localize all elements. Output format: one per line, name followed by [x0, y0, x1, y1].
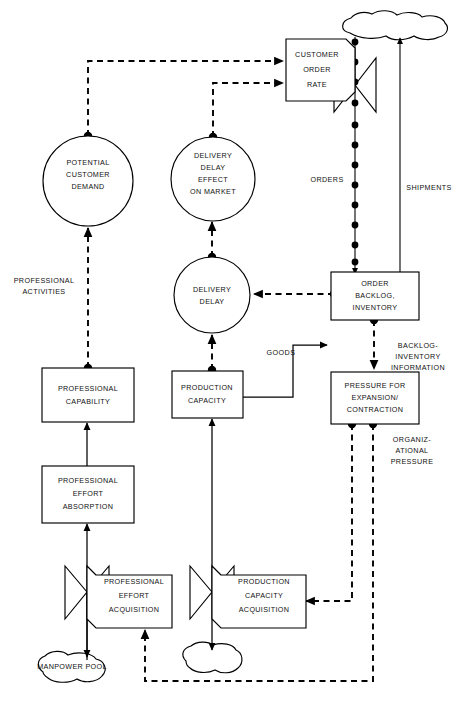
node-order-backlog-inventory[interactable]: ORDER BACKLOG, INVENTORY: [331, 272, 419, 320]
potential-customer-demand-line2: CUSTOMER: [66, 170, 110, 179]
link-capacity-to-delivery-delay: [208, 335, 216, 374]
production-capacity-acquisition-line2: CAPACITY: [245, 591, 283, 600]
backlog-info-label-line3: INFORMATION: [391, 363, 445, 372]
link-delay-effect-to-order-rate: [209, 83, 283, 141]
node-professional-effort-acquisition[interactable]: PROFESSIONAL EFFORT ACQUISITION: [87, 566, 172, 628]
customer-order-rate-line3: RATE: [307, 80, 327, 89]
manpower-pool-label: MANPOWER POOL: [37, 662, 107, 671]
delivery-delay-effect-line3: EFFECT: [198, 175, 228, 184]
system-dynamics-diagram: MANPOWER POOL ORDERS SHIPMENTS: [0, 0, 466, 702]
node-customer-order-rate[interactable]: CUSTOMER ORDER RATE: [286, 39, 355, 101]
node-delivery-delay-effect-on-market[interactable]: DELIVERY DELAY EFFECT ON MARKET: [171, 137, 255, 221]
goods-flow: GOODS: [243, 345, 327, 397]
order-backlog-line1: ORDER: [361, 279, 389, 288]
professional-capability-line2: CAPABILITY: [66, 397, 111, 406]
delivery-delay-line1: DELIVERY: [193, 285, 231, 294]
link-delay-to-delay-effect: [208, 222, 216, 261]
production-capacity-line1: PRODUCTION: [181, 383, 233, 392]
node-production-capacity-acquisition[interactable]: PRODUCTION CAPACITY ACQUISITION: [212, 566, 306, 628]
order-backlog-line3: INVENTORY: [353, 303, 398, 312]
shipments-flow-label: SHIPMENTS: [406, 183, 452, 192]
link-pressure-to-capacity-acquisition: [306, 420, 356, 601]
professional-effort-absorption-line3: ABSORPTION: [63, 502, 114, 511]
node-professional-capability[interactable]: PROFESSIONAL CAPABILITY: [42, 368, 134, 422]
professional-effort-absorption-line1: PROFESSIONAL: [58, 476, 118, 485]
goods-flow-label: GOODS: [267, 348, 296, 357]
link-demand-to-order-rate: [84, 61, 283, 140]
pressure-line1: PRESSURE FOR: [345, 381, 406, 390]
delivery-delay-line2: DELAY: [200, 297, 225, 306]
professional-activities-label-line2: ACTIVITIES: [22, 287, 65, 296]
link-organizational-pressure: ORGANIZ- ATIONAL PRESSURE: [145, 420, 433, 681]
professional-effort-acquisition-line3: ACQUISITION: [109, 605, 160, 614]
node-delivery-delay[interactable]: DELIVERY DELAY: [174, 257, 250, 333]
delivery-delay-effect-line2: DELAY: [201, 163, 226, 172]
pressure-line2: EXPANSION/: [352, 393, 399, 402]
production-capacity-acquisition-line3: ACQUISITION: [239, 605, 290, 614]
order-backlog-line2: BACKLOG,: [355, 291, 395, 300]
node-potential-customer-demand[interactable]: POTENTIAL CUSTOMER DEMAND: [43, 136, 133, 226]
node-professional-effort-absorption[interactable]: PROFESSIONAL EFFORT ABSORPTION: [42, 466, 134, 523]
manpower-pool-cloud: MANPOWER POOL: [37, 651, 107, 682]
organizational-pressure-label-line2: ATIONAL: [395, 446, 428, 455]
production-capacity-line2: CAPACITY: [188, 396, 226, 405]
professional-effort-acquisition-line2: EFFORT: [119, 591, 150, 600]
shipments-flow: SHIPMENTS: [400, 38, 452, 272]
customer-order-rate-line1: CUSTOMER: [295, 50, 339, 59]
link-backlog-information: BACKLOG- INVENTORY INFORMATION: [370, 316, 445, 372]
node-production-capacity[interactable]: PRODUCTION CAPACITY: [172, 371, 243, 418]
professional-effort-acquisition-line1: PROFESSIONAL: [104, 577, 164, 586]
potential-customer-demand-line3: DEMAND: [71, 182, 104, 191]
pressure-line3: CONTRACTION: [347, 405, 404, 414]
orders-flow-label: ORDERS: [310, 175, 343, 184]
backlog-info-label-line1: BACKLOG-: [398, 341, 439, 350]
customer-order-rate-line2: ORDER: [303, 65, 331, 74]
potential-customer-demand-line1: POTENTIAL: [66, 158, 109, 167]
organizational-pressure-label-line3: PRESSURE: [391, 457, 434, 466]
professional-capability-line1: PROFESSIONAL: [58, 384, 118, 393]
backlog-info-label-line2: INVENTORY: [395, 352, 440, 361]
source-cloud-top: [343, 11, 448, 40]
link-professional-activities: PROFESSIONAL ACTIVITIES: [14, 228, 93, 372]
link-backlog-to-delivery-delay: [254, 290, 338, 298]
node-pressure-for-expansion-contraction[interactable]: PRESSURE FOR EXPANSION/ CONTRACTION: [331, 372, 419, 424]
organizational-pressure-label-line1: ORGANIZ-: [393, 435, 432, 444]
diagram-canvas: MANPOWER POOL ORDERS SHIPMENTS: [0, 0, 466, 702]
production-capacity-acquisition-line1: PRODUCTION: [238, 577, 290, 586]
professional-activities-label-line1: PROFESSIONAL: [14, 276, 75, 285]
delivery-delay-effect-line1: DELIVERY: [194, 151, 232, 160]
delivery-delay-effect-line4: ON MARKET: [190, 187, 236, 196]
professional-effort-absorption-line2: EFFORT: [73, 489, 104, 498]
